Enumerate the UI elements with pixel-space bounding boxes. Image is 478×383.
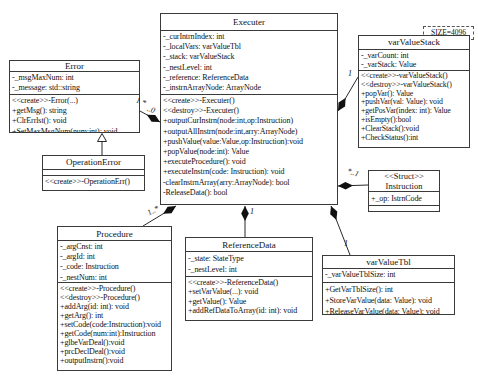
class-varvaluetbl: varValueTbl -_varValueTblSize: int +GetV… <box>322 255 455 315</box>
class-title: Executer <box>161 14 337 30</box>
class-executer: Executer -_curIntrnIndex: int-_localVars… <box>160 13 338 205</box>
attribute: -_state: StateType <box>188 253 310 264</box>
method: <<create>>-OperationErr() <box>45 177 142 187</box>
class-title: <<Struct>> Instruction <box>369 171 439 191</box>
attribute: -_nestNum: int <box>60 273 169 282</box>
referencedata-attributes: -_state: StateType-_nestLevel: int <box>186 251 312 276</box>
attribute: -_code: Instruction <box>60 262 169 272</box>
method: <<create>>-Error(...) <box>12 96 137 106</box>
class-error: Error -_msgMaxNum: int-_message: std::st… <box>9 60 140 133</box>
attribute: -_nestLevel: int <box>188 264 310 275</box>
attribute: -_argCnst: int <box>60 242 169 252</box>
method: +CheckStatus():int <box>361 134 467 143</box>
attribute: -_nestLevel: int <box>163 63 335 73</box>
executer-attributes: -_curIntrnIndex: int-_localVars: varValu… <box>161 30 337 94</box>
class-title-text: Instruction <box>369 181 439 191</box>
error-attributes: -_msgMaxNum: int-_message: std::string <box>10 71 139 94</box>
multiplicity-label: 1 <box>344 239 348 248</box>
class-title: ReferenceData <box>186 238 312 251</box>
method: ... <box>60 365 169 370</box>
method: +ClrErrlst(): void <box>12 116 137 126</box>
class-instruction: <<Struct>> Instruction +_op: IstrnCode <box>368 170 440 212</box>
method: -clearInstrnArray(arry:ArrayNode): bool <box>163 178 335 188</box>
method: ... <box>163 198 335 204</box>
class-title: varValueStack <box>359 36 469 49</box>
class-operationerror: OperationError <<create>>-OperationErr() <box>42 155 145 191</box>
varvaluestack-attributes: -_varCount: int-_varStack: Value <box>359 49 469 70</box>
method: +pushValue(value:Value,op:Instruction):v… <box>163 137 335 147</box>
method: +executeProcedure(): void <box>163 157 335 167</box>
multiplicity-label: *..1 <box>346 166 360 179</box>
attribute: -_message: std::string <box>12 83 137 93</box>
varvaluestack-methods: <<create>>-varValueStack()<<destroy>>-va… <box>359 70 469 147</box>
method: +getArg(): int <box>60 311 169 320</box>
class-title: OperationError <box>43 156 144 169</box>
error-methods: <<create>>-Error(...)+getMsg(): string+C… <box>10 94 139 132</box>
method: +SetMaxMsgNum(num:int): void <box>12 127 137 132</box>
method: <<create>>-ReferenceData() <box>188 278 310 287</box>
method: ... <box>188 316 310 320</box>
instruction-attributes: +_op: IstrnCode <box>369 191 439 205</box>
method: +getMsg(): string <box>12 106 137 116</box>
class-procedure: Procedure -_argCnst: int-_argId: int-_co… <box>57 226 172 371</box>
method: +glbeVarDeal():void <box>60 338 169 347</box>
method: ... <box>361 142 467 147</box>
method: +addArg(id: int): void <box>60 302 169 311</box>
method: +outputAllInstrn(node:int,arry:ArrayNode… <box>163 127 335 137</box>
attribute: -_varStack: Value <box>361 60 467 69</box>
method: +setVarValue(...): void <box>188 287 310 296</box>
attribute: -_curIntrnIndex: int <box>163 32 335 42</box>
method: +getCode(num:int):Instruction <box>60 329 169 338</box>
method: +ReleaseVarValue(data: Value): void <box>325 306 452 314</box>
attribute: -_localVars: varValueTbl <box>163 42 335 52</box>
method: +executeInstrn(code: Instruction): void <box>163 167 335 177</box>
class-title: varValueTbl <box>323 256 454 268</box>
multiplicity-label: ..0 <box>146 104 156 115</box>
attribute: +_op: IstrnCode <box>371 193 437 204</box>
attribute: -_msgMaxNum: int <box>12 73 137 83</box>
class-referencedata: ReferenceData -_state: StateType-_nestLe… <box>185 237 313 321</box>
instruction-methods <box>369 205 439 211</box>
varvaluetbl-methods: +GetVarTblSize(): int+StoreVarValue(data… <box>323 282 454 314</box>
generalization-triangle <box>98 134 107 142</box>
attribute: -_reference: ReferenceData <box>163 73 335 83</box>
method: +outputInstrn():void <box>60 356 169 365</box>
method: <<create>>-Executer() <box>163 96 335 106</box>
method: <<destroy>>-Procedure() <box>60 293 169 302</box>
method: -ReleaseData(): bool <box>163 188 335 198</box>
method: +popValue(node:int): Value <box>163 147 335 157</box>
class-varvaluestack: varValueStack -_varCount: int-_varStack:… <box>358 35 470 148</box>
multiplicity-label: 1 <box>348 69 352 78</box>
referencedata-methods: <<create>>-ReferenceData()+setVarValue(.… <box>186 276 312 320</box>
attribute: -_argId: int <box>60 252 169 262</box>
procedure-attributes: -_argCnst: int-_argId: int-_code: Instru… <box>58 240 171 282</box>
method: +outputCurInstrn(node:int,op:Instruction… <box>163 116 335 126</box>
method: <<create>>-Procedure() <box>60 284 169 293</box>
attribute: -_instrnArrayNode: ArrayNode <box>163 83 335 93</box>
executer-methods: <<create>>-Executer()<<destroy>>-Execute… <box>161 94 337 204</box>
attribute: -_stack: varValueStack <box>163 52 335 62</box>
composition-executer-varvaluestack <box>338 77 358 111</box>
method: +addRefDataToArray(id: int): void <box>188 306 310 315</box>
procedure-methods: <<create>>-Procedure()<<destroy>>-Proced… <box>58 282 171 370</box>
stereotype: <<Struct>> <box>369 171 439 181</box>
multiplicity-label: 1 <box>250 207 254 216</box>
multiplicity-label: 1..* <box>146 204 161 218</box>
uml-class-diagram: SIZE=4096 Executer -_curIntrnIndex: int-… <box>0 0 478 383</box>
attribute: -_varValueTblSize: int <box>325 270 452 280</box>
method: +prcDeclDeal():void <box>60 347 169 356</box>
method: +getValue(): Value <box>188 297 310 306</box>
attribute: -_varCount: int <box>361 51 467 60</box>
operationerror-methods: <<create>>-OperationErr() <box>43 175 144 190</box>
method: +setCode(code:Instruction):void <box>60 320 169 329</box>
class-title: Error <box>10 61 139 71</box>
composition-executer-instruction <box>338 185 368 186</box>
varvaluetbl-attributes: -_varValueTblSize: int <box>323 268 454 282</box>
method: <<destroy>>-Executer() <box>163 106 335 116</box>
method: +StoreVarValue(data: Value): void <box>325 295 452 306</box>
method: +GetVarTblSize(): int <box>325 284 452 295</box>
class-title: Procedure <box>58 227 171 240</box>
